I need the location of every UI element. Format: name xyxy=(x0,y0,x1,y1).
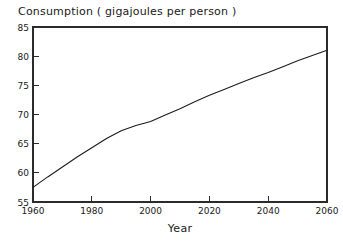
y-axis-tick-labels: 85 80 75 70 65 60 55 xyxy=(18,23,30,208)
x-tick-label-2060: 2060 xyxy=(316,206,339,216)
y-tick-label-60: 60 xyxy=(18,168,30,178)
x-tick-label-1960: 1960 xyxy=(22,206,45,216)
y-tick-label-70: 70 xyxy=(18,110,30,120)
consumption-line-series xyxy=(33,50,327,187)
x-axis-ticks xyxy=(33,196,327,202)
line-chart-plot: 85 80 75 70 65 60 55 1960 1980 2000 2020… xyxy=(0,0,343,241)
chart-screenshot: Consumption ( gigajoules per person ) 85… xyxy=(0,0,343,241)
x-tick-label-2040: 2040 xyxy=(257,206,280,216)
x-tick-label-2020: 2020 xyxy=(198,206,221,216)
y-tick-label-65: 65 xyxy=(18,139,29,149)
x-tick-label-1980: 1980 xyxy=(80,206,103,216)
y-tick-label-80: 80 xyxy=(18,52,30,62)
y-tick-label-85: 85 xyxy=(18,23,29,33)
plot-frame xyxy=(33,27,327,202)
x-tick-label-2000: 2000 xyxy=(139,206,162,216)
y-tick-label-75: 75 xyxy=(18,81,29,91)
x-axis-title: Year xyxy=(167,222,193,235)
x-axis-tick-labels: 1960 1980 2000 2020 2040 2060 xyxy=(22,206,339,216)
y-axis-ticks xyxy=(33,27,39,202)
